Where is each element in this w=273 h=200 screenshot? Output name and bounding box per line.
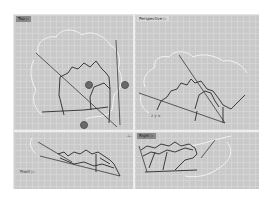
viewport-label-front[interactable]: Front ▷ — [18, 169, 36, 175]
viewport-splitter-vertical[interactable] — [133, 15, 135, 189]
viewport-label-right[interactable]: Right ▷ — [137, 133, 156, 139]
viewport-splitter-horizontal[interactable] — [14, 130, 259, 132]
splitter-handle-icon[interactable]: ⊥, — [127, 133, 132, 138]
viewport-perspective[interactable]: z y x Perspective ▷ — [135, 15, 259, 130]
control-point[interactable] — [80, 121, 88, 129]
viewport-label-perspective[interactable]: Perspective ▷ — [137, 16, 169, 22]
axes-icon: z y x — [151, 113, 160, 118]
top-view-geometry — [14, 15, 133, 130]
viewport-right[interactable]: Right ▷ — [135, 132, 259, 189]
viewport-front[interactable]: Front ▷ — [14, 132, 133, 189]
viewport-layout: Top ▷ z y x Perspective ▷ Front ▷ — [13, 14, 259, 189]
control-point[interactable] — [121, 81, 129, 89]
viewport-label-top[interactable]: Top ▷ — [16, 16, 31, 22]
control-point[interactable] — [85, 81, 93, 89]
viewport-top[interactable]: Top ▷ — [14, 15, 133, 130]
front-view-geometry — [14, 132, 133, 189]
right-view-geometry — [135, 132, 259, 189]
